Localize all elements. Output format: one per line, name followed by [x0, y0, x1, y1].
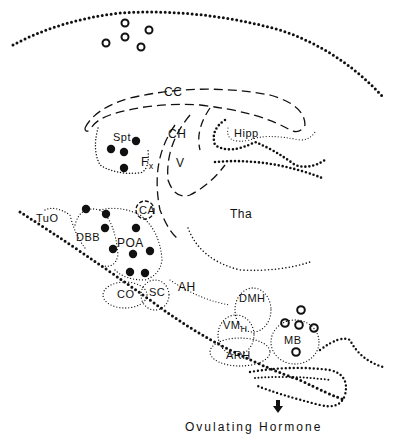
cortex-outline	[13, 12, 383, 97]
label-ch: CH	[168, 128, 186, 140]
pituitary-outline	[250, 368, 346, 406]
label-tha: Tha	[230, 208, 252, 220]
hippocampus-lower	[215, 161, 322, 178]
label-cc: CC	[164, 86, 182, 98]
ch-curve	[199, 108, 210, 150]
label-fx: Fx	[141, 156, 154, 171]
label-dbb: DBB	[76, 232, 100, 243]
arrow-down-icon	[273, 400, 283, 413]
label-sc: SC	[149, 287, 165, 298]
corpus-callosum	[85, 89, 305, 131]
label-dmh: DMH	[239, 293, 266, 304]
label-ca: CA	[139, 205, 155, 216]
hippocampus-outline	[214, 120, 325, 167]
open-circles-cortex	[103, 20, 153, 51]
label-poa: POA	[117, 237, 144, 249]
label-v: V	[176, 157, 185, 169]
label-mb: MB	[284, 335, 302, 346]
caption-ovulating-hormone: Ovulating Hormone	[185, 420, 322, 434]
label-tuo: TuO	[36, 213, 59, 224]
label-spt: Spt	[113, 132, 131, 143]
label-ah: AH	[178, 281, 196, 293]
label-vmh: VMH	[223, 320, 248, 334]
open-circles-mb	[281, 306, 318, 356]
brainstem-outline	[320, 339, 383, 367]
label-hipp: Hipp	[234, 128, 259, 139]
label-arh: ARH	[226, 350, 251, 361]
ventral-surface	[20, 212, 345, 400]
label-co: CO	[117, 289, 135, 300]
brain-diagram	[0, 0, 393, 443]
thalamus-boundary	[188, 228, 310, 270]
